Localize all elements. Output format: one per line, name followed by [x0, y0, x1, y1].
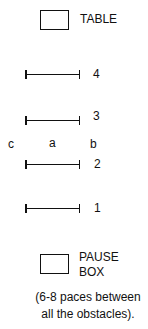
obstacle-bar-2 [25, 164, 80, 165]
pause-box-label-line2: BOX [79, 266, 104, 279]
pause-box-label-line1: PAUSE [79, 251, 119, 264]
obstacle-number-3: 3 [93, 110, 100, 123]
obstacle-number-2: 2 [94, 158, 101, 171]
table-box [40, 10, 69, 30]
obstacle-number-4: 4 [93, 68, 100, 81]
caption-line2: all the obstacles). [28, 306, 148, 322]
obstacle-bar-4 [25, 74, 80, 75]
caption-line1: (6-8 paces between [28, 289, 148, 305]
obstacle-bar-1 [25, 208, 80, 209]
position-c-label: c [8, 138, 14, 151]
obstacle-number-1: 1 [94, 202, 101, 215]
pause-box [40, 254, 69, 274]
obstacle-bar-3 [25, 120, 80, 121]
table-label: TABLE [80, 13, 117, 26]
position-b-label: b [90, 138, 97, 151]
position-a-label: a [49, 137, 56, 150]
